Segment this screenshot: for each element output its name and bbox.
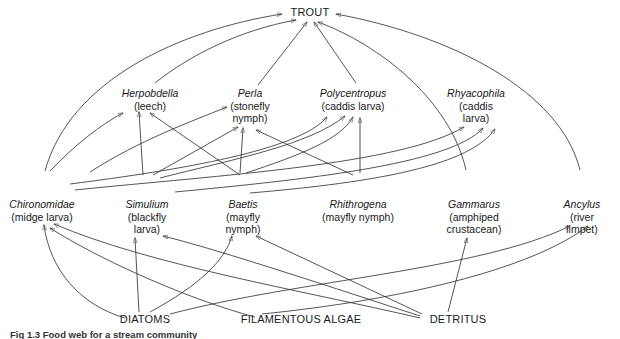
food-web-diagram: TROUT Herpobdella (leech) Perla (stonefl…: [0, 0, 620, 339]
node-detritus: DETRITUS: [430, 313, 487, 326]
node-rhithrogena: Rhithrogena (mayfly nymph): [322, 198, 394, 223]
edge-chironomidae-herpobdella: [50, 113, 123, 171]
node-simulium-genus: Simulium: [125, 198, 168, 211]
edge-herpobdella-trout: [155, 20, 296, 83]
node-baetis: Baetis (mayfly nymph): [225, 198, 260, 236]
node-simulium: Simulium (blackfly larva): [125, 198, 168, 236]
node-chironomidae: Chironomidae (midge larva): [9, 198, 74, 223]
edge-diatoms-chironomidae: [44, 225, 125, 318]
node-filamentous-algae: FILAMENTOUS ALGAE: [241, 313, 362, 326]
edge-chironomidae-polycentropus: [70, 117, 327, 184]
node-baetis-common: (mayfly nymph): [225, 211, 260, 236]
node-perla-common: (stonefly nymph): [230, 100, 270, 125]
edge-detritus-chironomidae: [54, 224, 420, 318]
node-rhyacophila-genus: Rhyacophila: [447, 87, 505, 100]
node-trout-label: TROUT: [291, 6, 330, 18]
node-gammarus-common: (amphiped crustacean): [447, 211, 502, 236]
edge-detritus-gammarus: [448, 238, 467, 312]
node-rhithrogena-common: (mayfly nymph): [322, 211, 394, 224]
edge-diatoms-simulium: [135, 238, 139, 312]
edge-perla-trout: [258, 22, 307, 85]
edge-simulium-perla: [153, 127, 238, 175]
node-ancylus-genus: Ancylus: [563, 198, 601, 211]
edge-diatoms-ancylus: [170, 226, 570, 314]
figure-caption: Fig 1.3 Food web for a stream community: [10, 329, 197, 339]
node-trout: TROUT: [291, 6, 330, 19]
edge-detritus-baetis: [256, 236, 422, 314]
node-polycentropus-genus: Polycentropus: [320, 87, 387, 100]
node-diatoms: DIATOMS: [120, 313, 171, 326]
edge-baetis-rhyacophila: [250, 129, 495, 193]
edge-algae-ancylus: [262, 226, 588, 314]
node-polycentropus: Polycentropus (caddis larva): [320, 87, 387, 112]
node-ancylus-common: (river limpet): [563, 211, 601, 236]
node-chironomidae-common: (midge larva): [9, 211, 74, 224]
node-gammarus-genus: Gammarus: [447, 198, 502, 211]
edge-simulium-rhyacophila: [175, 128, 483, 192]
node-herpobdella-genus: Herpobdella: [122, 87, 179, 100]
node-herpobdella: Herpobdella (leech): [122, 87, 179, 112]
edge-algae-chironomidae: [50, 228, 255, 317]
edge-polycentropus-trout: [314, 22, 356, 83]
edge-baetis-herpobdella: [150, 113, 240, 175]
node-simulium-common: (blackfly larva): [125, 211, 168, 236]
node-rhyacophila: Rhyacophila (caddis larva): [447, 87, 505, 125]
edge-baetis-polycentropus: [246, 117, 353, 173]
node-ancylus: Ancylus (river limpet): [563, 198, 601, 236]
node-rhyacophila-common: (caddis larva): [447, 100, 505, 125]
node-baetis-genus: Baetis: [225, 198, 260, 211]
food-web-edges: [0, 0, 620, 339]
node-perla: Perla (stonefly nymph): [230, 87, 270, 125]
node-detritus-label: DETRITUS: [430, 313, 487, 325]
node-polycentropus-common: (caddis larva): [320, 100, 387, 113]
node-perla-genus: Perla: [230, 87, 270, 100]
node-herpobdella-common: (leech): [122, 100, 179, 113]
node-chironomidae-genus: Chironomidae: [9, 198, 74, 211]
node-diatoms-label: DIATOMS: [120, 313, 171, 325]
edge-rhithrogena-perla: [256, 130, 353, 175]
node-gammarus: Gammarus (amphiped crustacean): [447, 198, 502, 236]
node-algae-label: FILAMENTOUS ALGAE: [241, 313, 362, 325]
node-rhithrogena-genus: Rhithrogena: [322, 198, 394, 211]
edge-detritus-simulium: [163, 236, 420, 316]
edge-baetis-perla: [240, 128, 243, 173]
